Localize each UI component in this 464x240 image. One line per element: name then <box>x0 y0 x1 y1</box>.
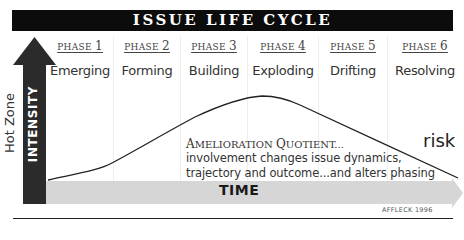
phase-5-header: PHASE 5 <box>319 39 387 53</box>
phase-1-header: PHASE 1 <box>46 39 114 53</box>
annotation-line-2: trajectory and outcome...and alters phas… <box>186 166 435 180</box>
annotation-line-1: involvement changes issue dynamics, <box>186 151 402 165</box>
phase-2-header: PHASE 2 <box>113 39 181 53</box>
phase-6-name: Resolving <box>391 63 459 78</box>
phase-4-header: PHASE 4 <box>249 39 317 53</box>
credit-text: AFFLECK 1996 <box>382 206 433 214</box>
time-label: TIME <box>219 182 259 198</box>
amelioration-quotient-title: AMELIORATION QUOTIENT... <box>186 137 344 151</box>
bottom-rule <box>13 218 453 219</box>
phase-3-name: Building <box>180 63 248 78</box>
phase-4-name: Exploding <box>249 63 317 78</box>
phase-1-name: Emerging <box>46 63 114 78</box>
phase-6-header: PHASE 6 <box>391 39 459 53</box>
phase-2-name: Forming <box>113 63 181 78</box>
risk-label: risk <box>423 130 455 151</box>
phase-3-header: PHASE 3 <box>180 39 248 53</box>
phase-5-name: Drifting <box>319 63 387 78</box>
intensity-label: INTENSITY <box>24 77 42 171</box>
hot-zone-label: Hot Zone <box>2 78 20 168</box>
